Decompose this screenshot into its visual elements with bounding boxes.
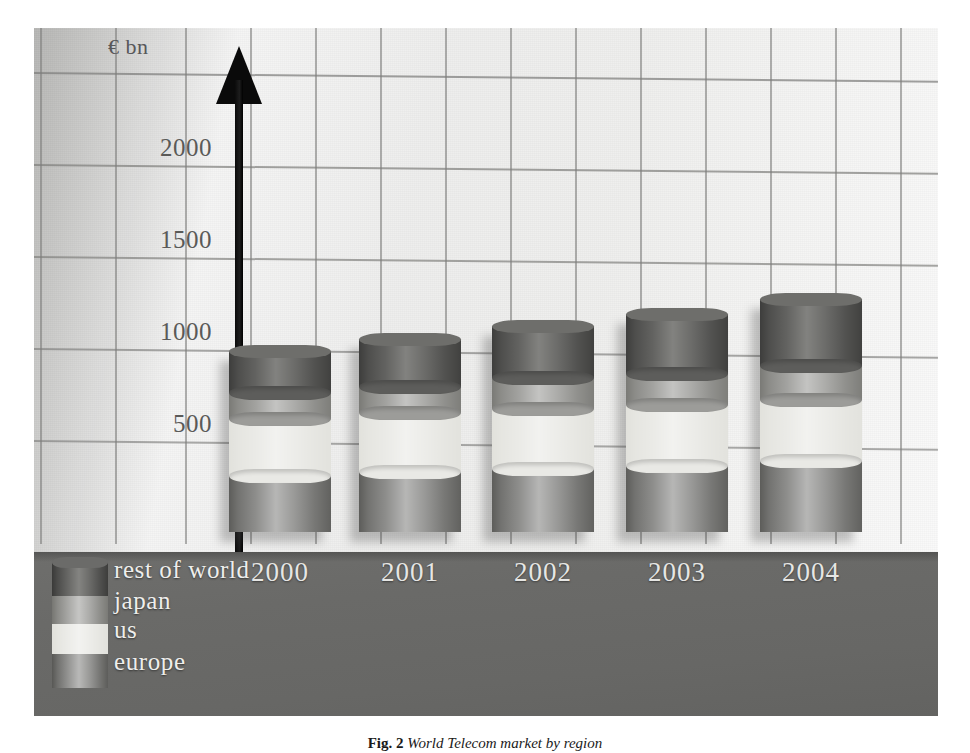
segment-meniscus: [359, 465, 461, 479]
bar-2004[interactable]: [760, 299, 862, 532]
x-axis-label-2001: 2001: [345, 557, 475, 588]
segment-meniscus: [492, 402, 594, 416]
y-axis-tick-label: 1500: [120, 226, 212, 254]
caption-text: World Telecom market by region: [407, 735, 602, 751]
legend-swatch-europe: [52, 654, 108, 688]
bar-top-cap: [626, 308, 728, 321]
bar-segment-rest-of-world: [760, 299, 862, 366]
bar-2001[interactable]: [359, 339, 461, 532]
legend-swatch-rest-of-world: [52, 562, 108, 596]
segment-meniscus: [492, 371, 594, 385]
bar-top-cap: [229, 345, 331, 358]
y-axis-tick-label: 2000: [120, 134, 212, 162]
chart-plate: 200015001000500 € bn 2000200120022003200…: [34, 28, 938, 716]
bar-segment-europe: [760, 461, 862, 532]
bar-2002[interactable]: [492, 326, 594, 532]
x-axis-label-2000: 2000: [215, 557, 345, 588]
segment-meniscus: [359, 406, 461, 420]
bar-segment-us: [492, 409, 594, 470]
legend-cylinder-swatch: [52, 562, 108, 688]
caption-label: Fig. 2: [368, 735, 404, 751]
bar-segment-us: [359, 413, 461, 472]
segment-meniscus: [626, 398, 728, 412]
y-axis-tick-label: 500: [120, 410, 212, 438]
segment-meniscus: [760, 454, 862, 468]
bar-segment-rest-of-world: [359, 339, 461, 387]
legend-label-europe[interactable]: europe: [114, 648, 186, 676]
bar-segment-rest-of-world: [229, 351, 331, 393]
legend-label-japan[interactable]: japan: [114, 587, 171, 615]
bar-2003[interactable]: [626, 314, 728, 532]
legend-swatch-japan: [52, 596, 108, 624]
segment-meniscus: [760, 393, 862, 407]
bar-segment-us: [760, 400, 862, 461]
bar-segment-us: [229, 419, 331, 476]
bar-top-cap: [359, 333, 461, 346]
segment-meniscus: [492, 462, 594, 476]
legend-swatch-us: [52, 624, 108, 654]
figure-caption: Fig. 2 World Telecom market by region: [0, 728, 970, 753]
figure-page: 200015001000500 € bn 2000200120022003200…: [0, 0, 970, 753]
x-axis-label-2002: 2002: [478, 557, 608, 588]
segment-meniscus: [359, 380, 461, 394]
x-axis-label-2003: 2003: [612, 557, 742, 588]
bar-segment-europe: [626, 466, 728, 532]
bar-segment-rest-of-world: [492, 326, 594, 378]
bar-segment-us: [626, 405, 728, 466]
y-axis-tick-label: 1000: [120, 318, 212, 346]
bar-segment-rest-of-world: [626, 314, 728, 374]
segment-meniscus: [626, 459, 728, 473]
y-axis-unit-label: € bn: [108, 34, 149, 60]
segment-meniscus: [626, 367, 728, 381]
x-axis-label-2004: 2004: [746, 557, 876, 588]
legend-label-us[interactable]: us: [114, 616, 137, 644]
segment-meniscus: [760, 359, 862, 373]
bar-top-cap: [760, 293, 862, 306]
segment-meniscus: [229, 412, 331, 426]
legend-swatch-cap: [52, 557, 108, 568]
bar-segment-europe: [492, 469, 594, 532]
bar-segment-europe: [229, 476, 331, 532]
bar-segment-europe: [359, 472, 461, 532]
segment-meniscus: [229, 386, 331, 400]
bar-2000[interactable]: [229, 351, 331, 532]
segment-meniscus: [229, 469, 331, 483]
bar-top-cap: [492, 320, 594, 333]
